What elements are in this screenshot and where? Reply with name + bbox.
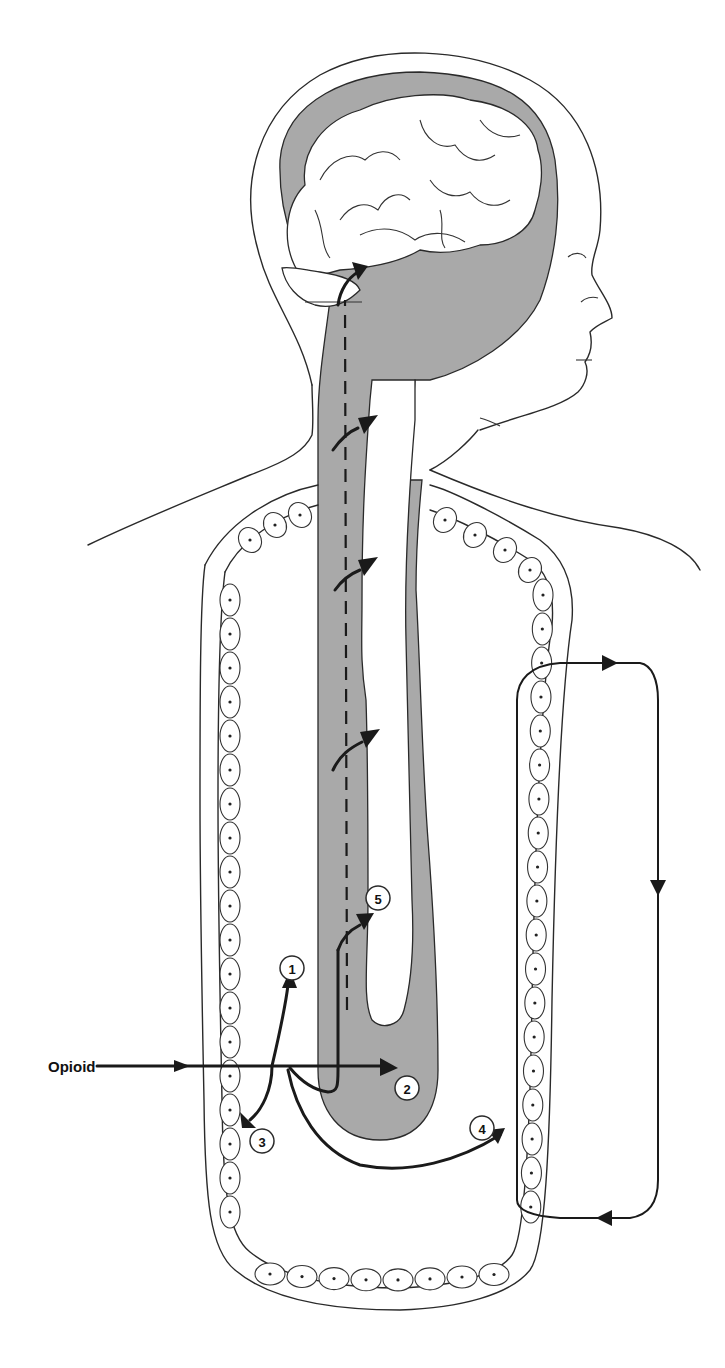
opioid-label: Opioid: [48, 1058, 96, 1075]
marker-3: 3: [250, 1129, 274, 1153]
marker-5: 5: [366, 886, 390, 910]
marker-1: 1: [280, 956, 304, 980]
svg-text:2: 2: [403, 1082, 410, 1097]
svg-text:4: 4: [478, 1122, 486, 1137]
svg-text:3: 3: [258, 1135, 265, 1150]
svg-text:5: 5: [374, 892, 381, 907]
svg-text:1: 1: [288, 962, 295, 977]
opioid-pathway-diagram: 1 2 3 4 5 Opioid: [0, 0, 725, 1368]
pathway-arrow-1: [272, 970, 297, 1066]
pathway-arrow-3: [240, 1066, 272, 1128]
marker-2: 2: [395, 1076, 419, 1100]
marker-4: 4: [470, 1116, 494, 1140]
